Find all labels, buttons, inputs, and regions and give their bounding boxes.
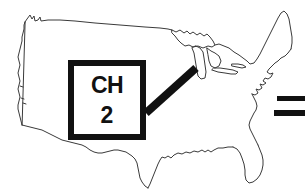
callout-label-line-1: CH: [91, 74, 123, 97]
florida-peninsula-path: [233, 145, 263, 183]
lake-ontario-path: [232, 64, 246, 68]
gulf-coast-path: [148, 147, 233, 188]
northern-border-path: [25, 15, 172, 30]
lake-superior-path: [172, 30, 215, 48]
usa-outline-map: [0, 0, 305, 193]
pacific-coast-path: [18, 22, 25, 125]
northeast-border-path: [215, 11, 292, 64]
channel-callout-box[interactable]: CH 2: [68, 60, 146, 140]
edge-bar-upper: [277, 96, 305, 101]
callout-label-line-2: 2: [101, 104, 114, 127]
edge-bar-lower: [274, 110, 305, 116]
figure-canvas: CH 2: [0, 0, 305, 193]
lake-huron-path: [207, 48, 221, 68]
new-england-coast-path: [252, 49, 291, 95]
lake-erie-path: [212, 68, 238, 74]
lake-michigan-path: [192, 46, 206, 79]
atlantic-coast-path: [249, 94, 258, 145]
